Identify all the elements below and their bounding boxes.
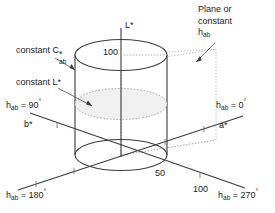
hue-90-degree: ° — [39, 98, 42, 105]
axis-b-text: b* — [24, 119, 33, 129]
hue-270-value: = 270 — [230, 190, 255, 200]
label-tick-100: 100 — [193, 184, 208, 195]
label-lightness-100: 100 — [103, 47, 118, 58]
plane-or-line1: Plane or — [198, 4, 232, 14]
axis-a-text: a* — [219, 120, 228, 130]
label-tick-50: 50 — [155, 168, 165, 179]
hue-270-degree: ° — [256, 188, 259, 195]
constant-hue-leader — [196, 43, 215, 62]
hue-0-value: = 0 — [228, 100, 243, 110]
label-axis-b: b* — [24, 119, 33, 130]
hue-270-sub: ab — [223, 194, 230, 201]
tick-50-text: 50 — [155, 168, 165, 178]
hue-180-degree: ° — [44, 188, 47, 195]
cielab-diagram: Plane or constant hab constant C*ab cons… — [0, 0, 275, 213]
hue-90-sub: ab — [11, 104, 18, 111]
label-hue-270: hab = 270° — [218, 190, 258, 201]
hue-180-sub: ab — [11, 194, 18, 201]
hue-0-degree: ° — [244, 98, 247, 105]
hue-180-value: = 180 — [18, 190, 43, 200]
hue-0-sub: ab — [221, 104, 228, 111]
label-l-star-axis: L* — [125, 20, 134, 31]
label-axis-a: a* — [219, 120, 228, 131]
plane-or-line3-sub: ab — [203, 31, 210, 38]
hue-90-value: = 90 — [18, 100, 38, 110]
lightness-100-text: 100 — [103, 47, 118, 57]
label-hue-180: hab = 180° — [6, 190, 46, 201]
label-plane-or-constant-hue: Plane or constant hab — [198, 4, 270, 39]
tick-100-text: 100 — [193, 184, 208, 194]
constant-chroma-text: constant C — [16, 45, 59, 55]
label-constant-lightness: constant L* — [16, 77, 61, 88]
plane-or-line2: constant — [198, 16, 232, 26]
b-star-axis — [30, 113, 245, 188]
label-hue-0: hab = 0° — [216, 100, 246, 111]
a-star-axis — [18, 116, 243, 190]
label-constant-chroma: constant C*ab — [16, 45, 68, 56]
constant-lightness-text: constant L* — [16, 77, 61, 87]
constant-chroma-sub: ab — [59, 56, 66, 67]
l-star-axis-text: L* — [125, 20, 134, 30]
label-hue-90: hab = 90° — [6, 100, 41, 111]
